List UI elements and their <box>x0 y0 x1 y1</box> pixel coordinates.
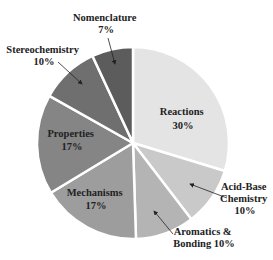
label-nomenclature: Nomenclature 7% <box>73 12 139 35</box>
pie-chart: Reactions 30% Acid-Base Chemistry 10% Ar… <box>0 0 273 260</box>
label-acid-base: Acid-Base Chemistry 10% <box>220 181 270 216</box>
label-aromatics: Aromatics & Bonding 10% <box>173 226 235 249</box>
label-stereochemistry: Stereochemistry 10% <box>6 44 81 67</box>
